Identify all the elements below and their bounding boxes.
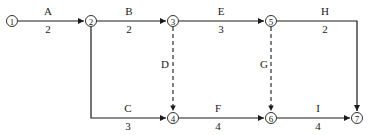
node-2-label: 2 (89, 17, 94, 27)
node-3-label: 3 (171, 17, 176, 27)
activity-c: C 3 (91, 27, 166, 132)
activity-h: H 2 (277, 5, 357, 111)
node-7-label: 7 (355, 114, 360, 124)
activity-i: I 4 (277, 102, 350, 132)
activity-h-duration: 2 (322, 23, 328, 35)
dummy-activity-g: G (260, 27, 271, 111)
node-2: 2 (86, 16, 97, 27)
node-5: 5 (266, 16, 277, 27)
activity-h-name: H (321, 5, 329, 17)
activity-e-duration: 3 (218, 23, 224, 35)
activity-a-name: A (44, 5, 52, 17)
activity-f-name: F (215, 102, 221, 114)
activity-c-duration: 3 (125, 120, 131, 132)
node-6: 6 (266, 113, 277, 124)
activity-i-name: I (316, 102, 320, 114)
activity-a-duration: 2 (45, 23, 51, 35)
dummy-d-label: D (161, 58, 169, 70)
activity-f: F 4 (179, 102, 264, 132)
node-4-label: 4 (171, 114, 176, 124)
activity-b: B 2 (97, 5, 166, 35)
node-3: 3 (168, 16, 179, 27)
activity-i-duration: 4 (315, 120, 321, 132)
node-4: 4 (168, 113, 179, 124)
node-5-label: 5 (269, 17, 274, 27)
activity-b-name: B (125, 5, 132, 17)
dummy-g-label: G (260, 58, 268, 70)
network-diagram: A 2 B 2 E 3 H 2 C 3 F 4 I 4 D (0, 0, 371, 135)
node-1-label: 1 (10, 17, 15, 27)
activity-e-name: E (218, 5, 225, 17)
activity-c-name: C (124, 102, 131, 114)
node-7: 7 (352, 113, 363, 124)
activity-b-duration: 2 (126, 23, 132, 35)
dummy-activity-d: D (161, 27, 173, 111)
activity-f-duration: 4 (215, 120, 221, 132)
activity-a: A 2 (18, 5, 84, 35)
node-6-label: 6 (269, 114, 274, 124)
node-1: 1 (7, 16, 18, 27)
activity-e: E 3 (179, 5, 264, 35)
